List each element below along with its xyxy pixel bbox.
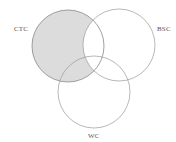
venn-svg: CTC BSC WC xyxy=(0,0,176,142)
label-ctc: CTC xyxy=(14,25,28,33)
label-bsc: BSC xyxy=(157,25,171,33)
label-wc: WC xyxy=(88,132,100,140)
venn-diagram: CTC BSC WC xyxy=(0,0,176,142)
